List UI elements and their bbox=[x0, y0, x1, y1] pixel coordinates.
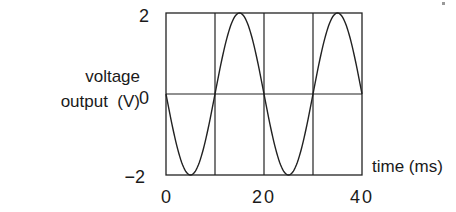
y-tick-neg2: −2 bbox=[124, 167, 145, 187]
y-tick-2: 2 bbox=[139, 6, 149, 26]
x-tick-20: 20 bbox=[252, 187, 276, 207]
x-tick-0: 0 bbox=[161, 187, 171, 207]
x-axis-label: time (ms) bbox=[372, 157, 443, 176]
y-axis-label-line1: voltage bbox=[85, 67, 140, 86]
y-tick-0: 0 bbox=[139, 88, 149, 108]
y-axis-label-line2: output (V) bbox=[61, 92, 140, 111]
chart: voltage output (V) 2 0 −2 0 20 40 time (… bbox=[0, 0, 456, 212]
stray-mark bbox=[442, 2, 445, 5]
plot-area bbox=[166, 13, 362, 175]
x-tick-40: 40 bbox=[350, 187, 374, 207]
